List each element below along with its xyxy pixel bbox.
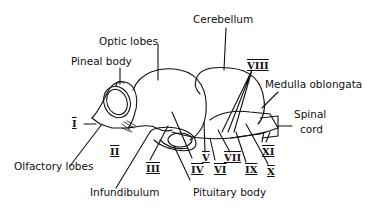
nerve-label-xi: XI xyxy=(262,146,274,157)
nerve-label-iv: IV xyxy=(191,164,203,175)
nerve-label-v: V xyxy=(202,152,210,163)
nerve-label-vii: VII xyxy=(224,152,241,163)
nerve-label-i: I xyxy=(72,118,77,129)
label-pituitary-body: Pituitary body xyxy=(193,186,266,198)
nerve-label-ii: II xyxy=(110,146,119,157)
label-medulla-oblongata: Medulla oblongata xyxy=(265,78,362,90)
label-pineal-body: Pineal body xyxy=(71,55,132,67)
label-olfactory-lobes: Olfactory lobes xyxy=(14,160,93,172)
nerve-label-iii: III xyxy=(146,163,160,174)
nerve-label-viii: VIII xyxy=(247,60,269,71)
label-spinal-cord-line2: cord xyxy=(300,123,323,135)
label-optic-lobes: Optic lobes xyxy=(99,35,158,47)
nerve-label-x: X xyxy=(267,166,275,177)
label-cerebellum: Cerebellum xyxy=(193,13,253,25)
nerve-label-vi: VI xyxy=(214,164,226,175)
brain-diagram-drawing xyxy=(0,0,372,211)
label-spinal-cord-line1: Spinal xyxy=(294,108,326,120)
nerve-label-ix: IX xyxy=(245,164,257,175)
label-infundibulum: Infundibulum xyxy=(90,186,159,198)
